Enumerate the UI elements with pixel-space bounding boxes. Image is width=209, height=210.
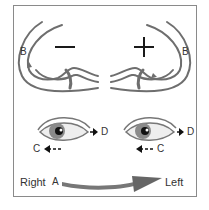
right-eye-icon	[124, 118, 184, 153]
left-canal	[19, 22, 98, 91]
rotation-start-label: Right	[20, 177, 46, 188]
plus-sign-icon	[134, 37, 154, 57]
right-eye-backward-label: C	[157, 144, 164, 154]
rotation-point-label: A	[52, 177, 59, 187]
left-canal-label: B	[20, 47, 27, 57]
left-eye-forward-label: D	[101, 127, 108, 137]
right-eye-forward-label: D	[187, 127, 194, 137]
right-canal	[111, 22, 190, 91]
left-eye-icon	[38, 118, 98, 153]
rotation-arrow-icon	[62, 176, 162, 192]
right-canal-label: B	[182, 47, 189, 57]
left-eye-backward-label: C	[33, 144, 40, 154]
rotation-end-label: Left	[165, 177, 183, 188]
